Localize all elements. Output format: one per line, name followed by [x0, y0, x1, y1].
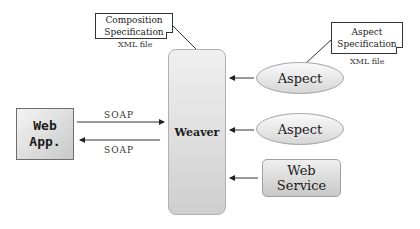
web-service-line2: Service: [277, 178, 326, 193]
soap-response-label: SOAP: [104, 145, 134, 155]
aspect-1-label: Aspect: [278, 71, 323, 86]
aspect-node-1: Aspect: [256, 62, 344, 94]
composition-spec-line2: Specification: [104, 26, 163, 38]
web-service-node: Web Service: [262, 159, 341, 197]
composition-specification-callout: Composition Specification: [95, 13, 173, 39]
soap-request-label: SOAP: [104, 110, 134, 120]
aspect-leader: [305, 40, 331, 64]
web-app-node: Web App.: [16, 108, 74, 160]
web-app-line2: App.: [29, 134, 60, 150]
weaver-label: Weaver: [175, 126, 220, 139]
composition-file-note: XML file: [118, 40, 152, 49]
aspect-specification-callout: Aspect Specification: [331, 22, 403, 54]
aspect-spec-line2: Specification: [337, 38, 396, 50]
web-app-line1: Web: [29, 118, 60, 134]
aspect-node-2: Aspect: [256, 113, 344, 145]
aspect-spec-line1: Aspect: [337, 26, 396, 38]
aspect-2-label: Aspect: [278, 122, 323, 137]
web-service-line1: Web: [277, 163, 326, 178]
composition-leader: [172, 25, 196, 49]
composition-spec-line1: Composition: [104, 14, 163, 26]
weaver-node: Weaver: [168, 49, 226, 215]
aspect-file-note: XML file: [350, 57, 384, 66]
